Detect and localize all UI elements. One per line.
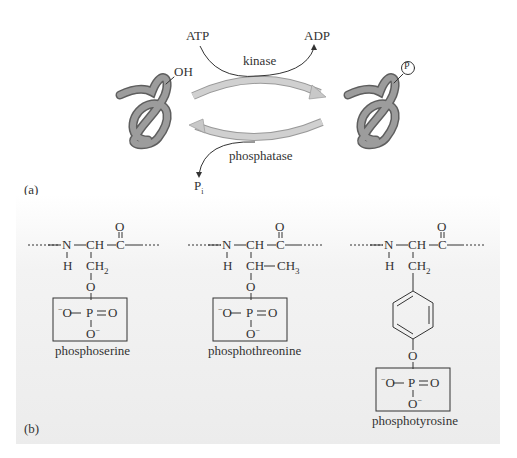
carbonyl-o: O	[437, 219, 446, 235]
phosphate-left-o: −O	[58, 305, 72, 321]
panel-b-label: (b)	[24, 421, 39, 437]
bridge-oxygen: O	[246, 279, 255, 295]
backbone-n: N	[62, 237, 71, 253]
bridge-oxygen: O	[86, 279, 95, 295]
phosphate-left-o: −O	[218, 305, 232, 321]
phosphate-p: P	[408, 375, 415, 391]
side-chain: CH2	[408, 258, 431, 276]
carbonyl-o: O	[115, 219, 124, 235]
side-chain: CH2	[86, 258, 109, 276]
phosphate-right-o: O	[268, 305, 277, 321]
backbone-n: N	[222, 237, 231, 253]
phosphate-bottom-o: O−	[246, 326, 260, 342]
backbone-c: C	[438, 237, 447, 253]
phosphate-bottom-o: O−	[408, 396, 422, 412]
phosphate-p: P	[86, 305, 93, 321]
methyl-group: CH3	[277, 258, 300, 276]
amide-h: H	[223, 258, 232, 274]
bridge-oxygen: O	[408, 348, 417, 364]
backbone-c: C	[116, 237, 125, 253]
side-chain: CH	[246, 258, 264, 274]
structure-name-phosphothreonine: phosphothreonine	[208, 343, 301, 359]
backbone-ch: CH	[246, 237, 264, 253]
phosphate-p: P	[246, 305, 253, 321]
phosphate-right-o: O	[430, 375, 439, 391]
amide-h: H	[63, 258, 72, 274]
phosphate-bottom-o: O−	[86, 326, 100, 342]
backbone-c: C	[276, 237, 285, 253]
amide-h: H	[385, 258, 394, 274]
phosphate-left-o: −O	[381, 375, 395, 391]
backbone-ch: CH	[86, 237, 104, 253]
phosphate-right-o: O	[108, 305, 117, 321]
structure-name-phosphotyrosine: phosphotyrosine	[372, 413, 458, 429]
carbonyl-o: O	[275, 219, 284, 235]
backbone-ch: CH	[408, 237, 426, 253]
backbone-n: N	[384, 237, 393, 253]
structure-name-phosphoserine: phosphoserine	[55, 343, 130, 359]
